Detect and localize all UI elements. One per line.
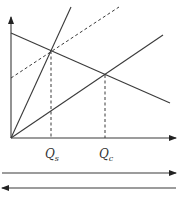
shallow-supply-line: [11, 35, 163, 138]
supply-demand-diagram: Qs Qc: [0, 0, 182, 205]
demand-line: [11, 33, 170, 103]
steep-supply-line: [11, 7, 71, 138]
qs-label: Qs: [45, 147, 59, 163]
shifted-supply-dashed-line: [11, 7, 119, 78]
qc-label: Qc: [99, 147, 114, 163]
